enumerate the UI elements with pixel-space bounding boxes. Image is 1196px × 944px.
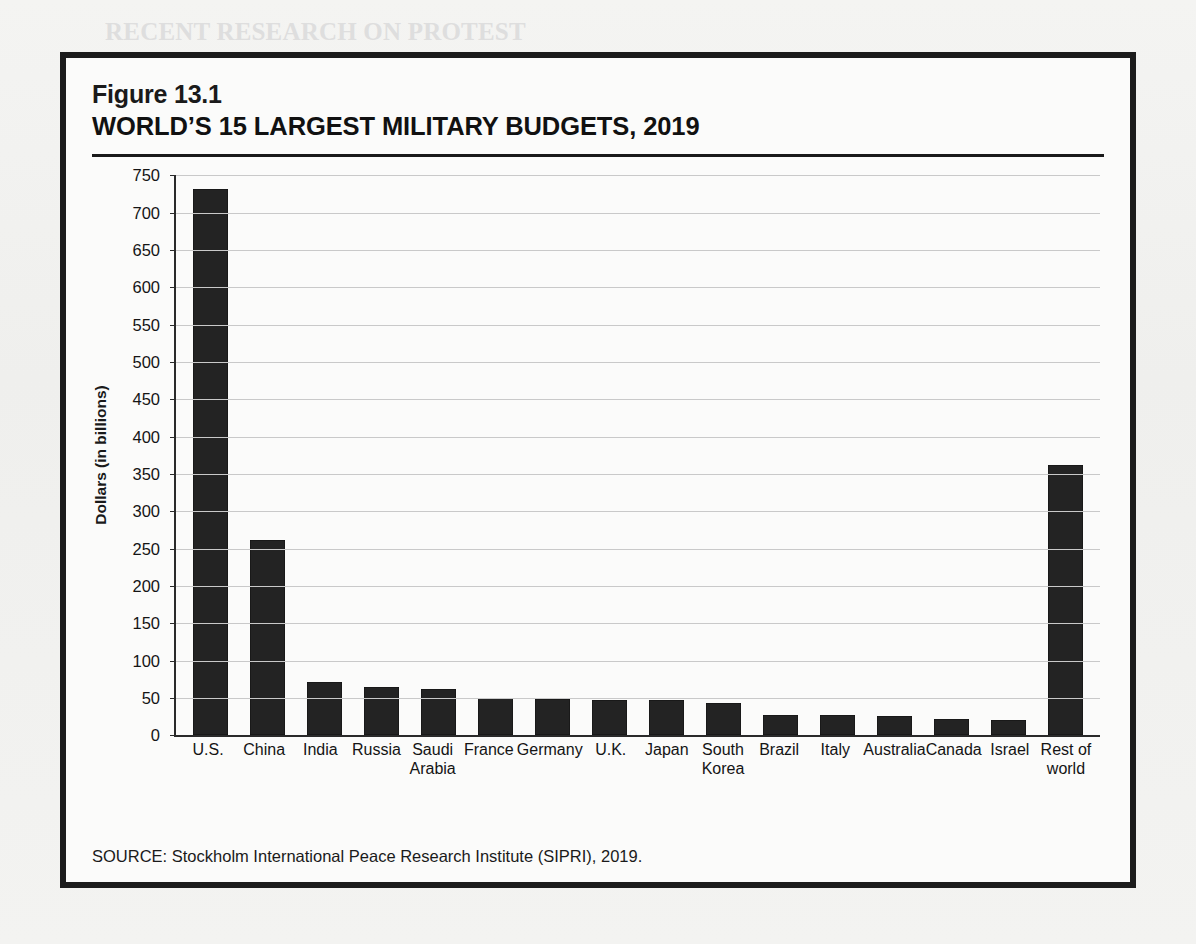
y-tick-label: 350 (132, 465, 160, 484)
gridline (176, 250, 1100, 251)
y-tick-mark (170, 287, 176, 288)
title-divider (92, 154, 1104, 157)
y-axis-label-text: Dollars (in billions) (92, 386, 110, 526)
y-tick-label: 750 (132, 166, 160, 185)
gridline (176, 213, 1100, 214)
y-tick-mark (170, 325, 176, 326)
bar-slot (182, 175, 239, 735)
x-tick-label: Rest of world (1038, 741, 1094, 779)
bar[interactable] (649, 700, 683, 735)
x-axis-labels: U.S.ChinaIndiaRussiaSaudi ArabiaFranceGe… (174, 741, 1100, 779)
y-tick-mark (170, 549, 176, 550)
bar-series (176, 175, 1100, 735)
y-tick-mark (170, 213, 176, 214)
y-tick-mark (170, 661, 176, 662)
bar-slot (467, 175, 524, 735)
bar[interactable] (250, 540, 284, 735)
y-tick-label: 650 (132, 241, 160, 260)
bar[interactable] (706, 703, 740, 736)
gridline (176, 399, 1100, 400)
x-tick-label: Canada (926, 741, 982, 779)
x-tick-label: Japan (639, 741, 695, 779)
bar[interactable] (934, 719, 968, 735)
x-tick-label: Israel (982, 741, 1038, 779)
y-tick-label: 700 (132, 203, 160, 222)
y-tick-mark (170, 511, 176, 512)
bar-slot (524, 175, 581, 735)
bar[interactable] (1048, 465, 1082, 735)
y-tick-mark (170, 586, 176, 587)
y-tick-label: 150 (132, 614, 160, 633)
y-axis-label: Dollars (in billions) (88, 175, 114, 735)
x-tick-label: Australia (863, 741, 925, 779)
y-tick-label: 0 (151, 726, 160, 745)
gridline (176, 175, 1100, 176)
bar[interactable] (991, 720, 1025, 735)
gridline (176, 586, 1100, 587)
y-tick-label: 600 (132, 278, 160, 297)
gridline (176, 698, 1100, 699)
y-tick-mark (170, 698, 176, 699)
bar[interactable] (307, 682, 341, 735)
x-tick-label: U.S. (180, 741, 236, 779)
x-tick-label: Brazil (751, 741, 807, 779)
figure-frame: Figure 13.1 WORLD’S 15 LARGEST MILITARY … (60, 52, 1136, 888)
bar-slot (638, 175, 695, 735)
bar-slot (1037, 175, 1094, 735)
y-tick-mark (170, 437, 176, 438)
gridline (176, 287, 1100, 288)
x-tick-label: Russia (348, 741, 404, 779)
y-tick-mark (170, 735, 176, 736)
y-tick-mark (170, 250, 176, 251)
x-tick-label: France (461, 741, 517, 779)
plot-wrapper: 0501001502002503003504004505005506006507… (122, 175, 1104, 787)
y-tick-label: 50 (142, 689, 160, 708)
gridline (176, 623, 1100, 624)
x-tick-label: Germany (517, 741, 583, 779)
gridline (176, 549, 1100, 550)
bar[interactable] (535, 699, 569, 736)
x-tick-label: South Korea (695, 741, 751, 779)
gridline (176, 511, 1100, 512)
x-tick-label: Italy (807, 741, 863, 779)
x-tick-label: China (236, 741, 292, 779)
figure-title: WORLD’S 15 LARGEST MILITARY BUDGETS, 201… (92, 111, 1104, 142)
figure-number: Figure 13.1 (92, 80, 1104, 109)
gridline (176, 325, 1100, 326)
plot-area (174, 175, 1100, 737)
y-tick-label: 450 (132, 390, 160, 409)
bar[interactable] (364, 687, 398, 736)
bar[interactable] (763, 715, 797, 735)
bar[interactable] (592, 700, 626, 736)
y-tick-label: 500 (132, 353, 160, 372)
y-tick-label: 300 (132, 502, 160, 521)
bar-slot (752, 175, 809, 735)
bar-slot (353, 175, 410, 735)
bar[interactable] (193, 189, 227, 736)
bar-slot (695, 175, 752, 735)
bar[interactable] (478, 698, 512, 735)
source-note: SOURCE: Stockholm International Peace Re… (92, 847, 642, 866)
y-tick-mark (170, 175, 176, 176)
x-tick-label: U.K. (583, 741, 639, 779)
bar[interactable] (421, 689, 455, 735)
gridline (176, 362, 1100, 363)
bar[interactable] (820, 715, 854, 735)
bar[interactable] (877, 716, 911, 735)
background-heading-line1: RECENT RESEARCH ON PROTEST (105, 18, 526, 46)
y-tick-label: 400 (132, 427, 160, 446)
y-tick-mark (170, 474, 176, 475)
y-tick-label: 100 (132, 651, 160, 670)
bar-slot (866, 175, 923, 735)
gridline (176, 474, 1100, 475)
figure-inner: Figure 13.1 WORLD’S 15 LARGEST MILITARY … (66, 58, 1130, 882)
bar-chart: Dollars (in billions) 050100150200250300… (92, 175, 1104, 787)
bar-slot (980, 175, 1037, 735)
y-tick-mark (170, 362, 176, 363)
y-tick-mark (170, 399, 176, 400)
y-tick-label: 250 (132, 539, 160, 558)
bar-slot (581, 175, 638, 735)
gridline (176, 437, 1100, 438)
bar-slot (923, 175, 980, 735)
y-tick-mark (170, 623, 176, 624)
